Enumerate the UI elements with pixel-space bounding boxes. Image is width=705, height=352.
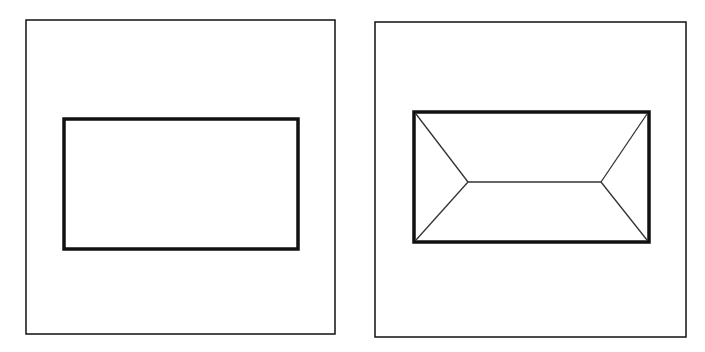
left-frame bbox=[26, 20, 335, 334]
right-hip-roof-rectangle bbox=[414, 112, 649, 242]
hip-line bbox=[601, 114, 647, 182]
right-frame bbox=[375, 22, 686, 337]
diagram-canvas bbox=[0, 0, 705, 352]
hip-line bbox=[601, 182, 647, 240]
hip-roof-lines bbox=[416, 114, 647, 240]
hip-line bbox=[416, 114, 468, 182]
left-flat-rectangle bbox=[64, 119, 298, 249]
left-panel bbox=[26, 20, 335, 334]
right-panel bbox=[375, 22, 686, 337]
hip-line bbox=[416, 182, 468, 240]
